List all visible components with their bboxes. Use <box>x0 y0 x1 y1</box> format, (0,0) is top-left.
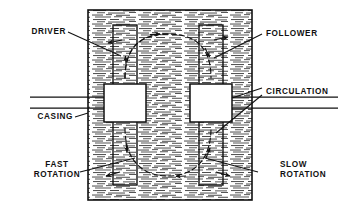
label-follower: FOLLOWER <box>266 29 318 38</box>
label-fast-rotation-line2: ROTATION <box>34 170 80 179</box>
diagram-canvas: DRIVER FOLLOWER CIRCULATION CASING FAST … <box>0 0 342 213</box>
label-casing: CASING <box>38 112 73 121</box>
flow-arrow-bottom-mid <box>176 176 186 177</box>
label-fast-rotation-line1: FAST <box>45 160 68 169</box>
label-circulation: CIRCULATION <box>266 87 328 96</box>
driver-rotor-block <box>104 84 146 122</box>
leader-casing <box>75 113 88 117</box>
label-slow-rotation-line1: SLOW <box>280 160 307 169</box>
follower-rotor-block <box>190 84 232 122</box>
label-slow-rotation-line2: ROTATION <box>280 170 326 179</box>
flow-arrow-top-mid <box>150 34 160 35</box>
flow-arrow-up-left <box>125 56 126 64</box>
label-driver: DRIVER <box>31 27 66 36</box>
cross-section-svg: DRIVER FOLLOWER CIRCULATION CASING FAST … <box>0 0 342 213</box>
